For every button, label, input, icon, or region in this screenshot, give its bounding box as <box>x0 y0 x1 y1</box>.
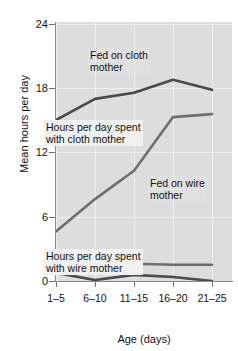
x-axis-tick <box>56 282 57 287</box>
y-axis-tick-label-12: 12 <box>20 147 48 157</box>
y-axis-tick <box>49 217 55 218</box>
annotation-hours-with-wire-mother: Hours per day spent with wire mother <box>44 249 143 275</box>
x-axis-tick-label-21-25: 21–25 <box>189 292 235 304</box>
x-axis-line <box>55 281 233 282</box>
y-axis-tick <box>49 281 55 282</box>
annotation-line-2: mother <box>90 61 148 73</box>
annotation-line-2: with cloth mother <box>46 133 141 145</box>
x-axis-tick <box>173 282 174 287</box>
x-axis-tick <box>212 282 213 287</box>
y-axis-tick-label-24: 24 <box>20 19 48 29</box>
annotation-hours-with-cloth-mother: Hours per day spent with cloth mother <box>44 120 143 146</box>
series-line-fed-on-cloth-mother <box>56 80 212 120</box>
y-axis-title: Mean hours per day <box>18 54 30 194</box>
y-axis-tick <box>49 88 55 89</box>
y-axis-tick-label-0: 0 <box>20 276 48 286</box>
chart-figure: Mean hours per day 24 18 12 6 0 1–5 6–10… <box>0 0 238 351</box>
y-axis-line <box>55 22 56 282</box>
x-axis-tick <box>95 282 96 287</box>
annotation-line-1: Fed on cloth <box>90 49 148 61</box>
annotation-line-2: mother <box>150 189 205 201</box>
annotation-line-1: Hours per day spent <box>46 250 141 262</box>
x-axis-title: Age (days) <box>50 333 238 345</box>
annotation-fed-on-cloth-mother: Fed on cloth mother <box>88 48 150 74</box>
annotation-fed-on-wire-mother: Fed on wire mother <box>148 176 207 202</box>
y-axis-tick <box>49 24 55 25</box>
annotation-line-1: Hours per day spent <box>46 121 141 133</box>
annotation-line-1: Fed on wire <box>150 177 205 189</box>
y-axis-tick <box>49 152 55 153</box>
y-axis-tick-label-18: 18 <box>20 83 48 93</box>
annotation-line-2: with wire mother <box>46 262 141 274</box>
y-axis-tick-label-6: 6 <box>20 212 48 222</box>
x-axis-tick <box>134 282 135 287</box>
